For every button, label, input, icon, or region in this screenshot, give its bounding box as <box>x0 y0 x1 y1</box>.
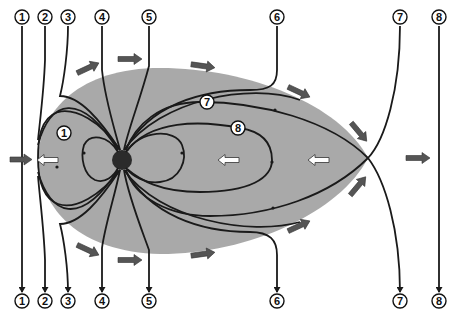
top-label-7: 7 <box>393 10 407 24</box>
top-label-5: 5 <box>142 10 156 24</box>
inner-label-7: 7 <box>200 95 214 109</box>
svg-text:6: 6 <box>274 295 280 307</box>
bottom-label-6: 6 <box>270 294 284 308</box>
top-labels: 1 2 3 4 5 6 7 8 <box>15 10 446 24</box>
top-label-6: 6 <box>270 10 284 24</box>
svg-text:3: 3 <box>65 11 71 23</box>
flow-arrow-icon <box>10 154 32 165</box>
field-line-2-bottom <box>38 176 45 292</box>
magnetosphere-diagram: 1 2 3 4 5 6 7 8 1 2 3 4 5 6 7 8 1 7 8 <box>0 0 457 319</box>
top-label-3: 3 <box>61 10 75 24</box>
bottom-label-3: 3 <box>61 294 75 308</box>
inner-label-1: 1 <box>57 126 71 140</box>
svg-text:1: 1 <box>19 295 25 307</box>
flow-arrow-icon <box>75 58 101 78</box>
svg-text:8: 8 <box>436 11 442 23</box>
bottom-label-5: 5 <box>142 294 156 308</box>
svg-text:7: 7 <box>204 96 210 108</box>
bottom-label-2: 2 <box>38 294 52 308</box>
svg-text:4: 4 <box>99 295 106 307</box>
svg-text:5: 5 <box>146 11 152 23</box>
top-label-2: 2 <box>38 10 52 24</box>
svg-text:1: 1 <box>19 11 25 23</box>
svg-text:7: 7 <box>397 11 403 23</box>
flow-arrow-icon <box>118 54 142 65</box>
bottom-label-4: 4 <box>95 294 109 308</box>
svg-text:1: 1 <box>61 127 67 139</box>
svg-text:6: 6 <box>274 11 280 23</box>
svg-text:8: 8 <box>436 295 442 307</box>
top-label-4: 4 <box>95 10 109 24</box>
svg-text:2: 2 <box>42 11 48 23</box>
bottom-label-8: 8 <box>432 294 446 308</box>
top-label-1: 1 <box>15 10 29 24</box>
svg-text:7: 7 <box>397 295 403 307</box>
inner-label-8: 8 <box>231 121 245 135</box>
top-label-8: 8 <box>432 10 446 24</box>
svg-text:8: 8 <box>235 122 241 134</box>
bottom-label-1: 1 <box>15 294 29 308</box>
bottom-labels: 1 2 3 4 5 6 7 8 <box>15 294 446 308</box>
svg-text:5: 5 <box>146 295 152 307</box>
flow-arrow-icon <box>406 153 430 164</box>
diagram-canvas: 1 2 3 4 5 6 7 8 1 2 3 4 5 6 7 8 1 7 8 <box>0 0 457 319</box>
svg-text:3: 3 <box>65 295 71 307</box>
flow-arrow-icon <box>118 255 142 266</box>
flow-arrow-icon <box>75 240 101 260</box>
svg-text:4: 4 <box>99 11 106 23</box>
bottom-label-7: 7 <box>393 294 407 308</box>
svg-text:2: 2 <box>42 295 48 307</box>
earth-icon <box>112 150 132 170</box>
